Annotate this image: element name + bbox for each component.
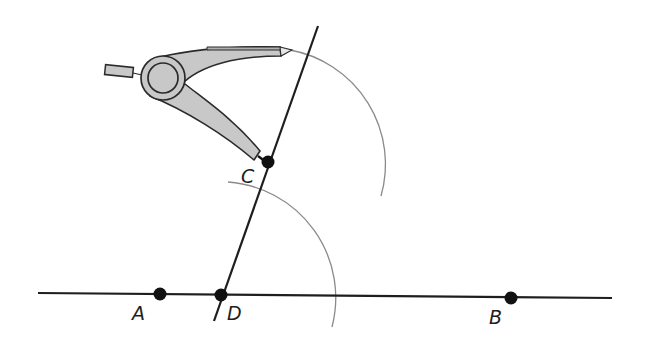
point-label-a: A [130,302,145,324]
compass-icon [105,47,292,162]
line-ab [38,293,612,298]
arc-from-d [228,182,336,327]
arc-from-c [290,50,385,196]
construction-diagram: A D B C [0,0,654,358]
point-c: C [241,156,275,188]
line-dc [214,26,318,321]
point-label-b: B [489,306,502,328]
point-label-d: D [227,302,242,324]
point-label-c: C [241,165,255,187]
